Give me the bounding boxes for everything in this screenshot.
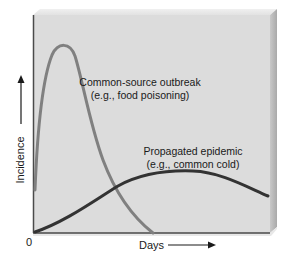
panel-right-bevel bbox=[270, 9, 277, 233]
plot-panel bbox=[33, 9, 277, 236]
origin-label: 0 bbox=[26, 236, 32, 248]
x-axis-arrow-icon bbox=[168, 242, 216, 249]
y-axis-label: Incidence bbox=[14, 136, 26, 183]
common-source-label: Common-source outbreak bbox=[79, 76, 201, 88]
x-axis-label: Days bbox=[139, 239, 165, 251]
epidemic-curve-diagram: Common-source outbreak (e.g., food poiso… bbox=[0, 0, 292, 266]
y-axis-arrow-icon bbox=[18, 75, 25, 124]
propagated-example: (e.g., common cold) bbox=[147, 158, 240, 170]
common-source-example: (e.g., food poisoning) bbox=[91, 89, 190, 101]
panel-top-bevel bbox=[33, 9, 277, 15]
propagated-label: Propagated epidemic bbox=[143, 145, 242, 157]
